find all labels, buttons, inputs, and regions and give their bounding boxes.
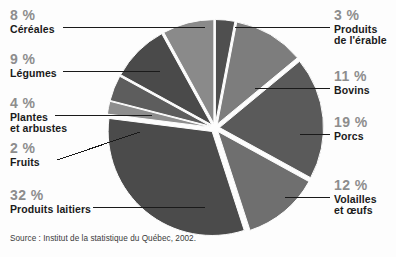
label-fruits: 2 % Fruits: [10, 141, 40, 168]
label-bovins-name: Bovins: [334, 85, 370, 96]
label-produits-erable-name-line2: de l'érable: [334, 35, 387, 46]
label-porcs-name: Porcs: [334, 131, 368, 142]
label-produits-erable-percent: 3 %: [334, 8, 387, 23]
label-plantes: 4 % Plantes et arbustes: [10, 96, 67, 135]
label-bovins: 11 % Bovins: [334, 69, 370, 96]
label-plantes-percent: 4 %: [10, 96, 67, 111]
label-produits-laitiers-percent: 32 %: [10, 188, 91, 203]
label-fruits-percent: 2 %: [10, 141, 40, 156]
label-plantes-name-line2: et arbustes: [10, 123, 67, 134]
label-legumes-name: Légumes: [10, 68, 57, 79]
label-volailles-percent: 12 %: [334, 178, 377, 193]
source-note: Source : Institut de la statistique du Q…: [10, 234, 196, 243]
label-produits-erable: 3 % Produits de l'érable: [334, 8, 387, 47]
pie-chart-figure: 8 % Céréales 9 % Légumes 4 % Plantes et …: [0, 0, 396, 257]
label-volailles: 12 % Volailles et œufs: [334, 178, 377, 217]
label-porcs-percent: 19 %: [334, 115, 368, 130]
label-fruits-name: Fruits: [10, 157, 40, 168]
label-cereales: 8 % Céréales: [10, 8, 55, 35]
label-legumes: 9 % Légumes: [10, 52, 57, 79]
label-porcs: 19 % Porcs: [334, 115, 368, 142]
label-produits-laitiers: 32 % Produits laitiers: [10, 188, 91, 215]
label-cereales-percent: 8 %: [10, 8, 55, 23]
label-bovins-percent: 11 %: [334, 69, 370, 84]
label-cereales-name: Céréales: [10, 24, 55, 35]
label-volailles-name-line2: et œufs: [334, 205, 377, 216]
label-produits-laitiers-name: Produits laitiers: [10, 204, 91, 215]
label-legumes-percent: 9 %: [10, 52, 57, 67]
pie-slices-group: [107, 20, 323, 236]
